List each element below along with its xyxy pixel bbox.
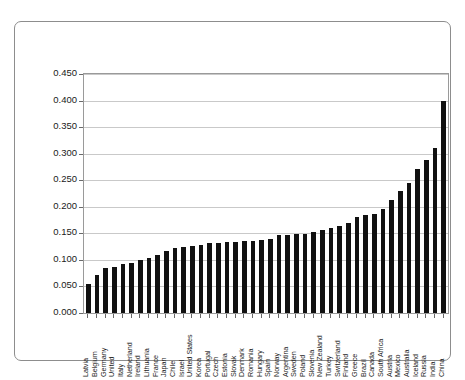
bar <box>381 209 386 313</box>
gridline <box>84 180 448 181</box>
gridline <box>84 74 448 75</box>
bar <box>103 268 108 313</box>
x-axis-tick-label: Korea <box>195 358 203 377</box>
bar <box>311 232 316 313</box>
y-axis-tick-label: 0.350 <box>53 121 77 131</box>
y-axis-tick-label: 0.200 <box>53 201 77 211</box>
x-axis-tickmark <box>417 314 418 318</box>
bar <box>112 267 117 313</box>
x-axis-tickmark <box>131 314 132 318</box>
x-axis-tickmark <box>373 314 374 318</box>
y-axis-tick-label: 0.150 <box>53 227 77 237</box>
bar <box>441 101 446 313</box>
x-axis-tickmark <box>183 314 184 318</box>
bar <box>433 148 438 313</box>
bar <box>294 234 299 313</box>
y-axis-tickmark <box>79 180 83 181</box>
bar <box>147 258 152 313</box>
bar <box>303 234 308 313</box>
x-axis-tickmark <box>122 314 123 318</box>
y-axis-tickmark <box>79 154 83 155</box>
x-axis-tickmark <box>321 314 322 318</box>
plot-area <box>83 73 449 314</box>
chart-figure: 0.0000.0500.1000.1500.2000.2500.3000.350… <box>0 0 465 380</box>
x-axis-tick-label: India <box>429 362 437 377</box>
y-axis-tick-label: 0.100 <box>53 254 77 264</box>
bar <box>424 160 429 313</box>
x-axis-tickmark <box>235 314 236 318</box>
bar <box>415 169 420 313</box>
bar <box>329 228 334 313</box>
x-axis-tickmark <box>339 314 340 318</box>
bar <box>233 242 238 313</box>
y-axis-tick-label: 0.000 <box>53 307 77 317</box>
bar <box>199 245 204 314</box>
bar <box>181 247 186 313</box>
x-axis-tick-label: China <box>438 358 446 377</box>
x-axis-tick-label: Belgium <box>91 351 99 377</box>
x-axis-tick-label: Norway <box>273 353 281 377</box>
bar <box>277 235 282 313</box>
bar <box>355 217 360 313</box>
bar <box>320 230 325 313</box>
x-axis-tickmark <box>96 314 97 318</box>
x-axis-tickmark <box>148 314 149 318</box>
x-axis-tickmark <box>313 314 314 318</box>
bar <box>363 215 368 313</box>
x-axis-tickmark <box>347 314 348 318</box>
x-axis-tickmark <box>261 314 262 318</box>
bar <box>225 242 230 313</box>
x-axis-tickmark <box>174 314 175 318</box>
x-axis-tickmark <box>399 314 400 318</box>
bar <box>173 248 178 313</box>
x-axis-tickmark <box>278 314 279 318</box>
x-axis-tickmark <box>157 314 158 318</box>
bar <box>268 239 273 313</box>
x-axis-tickmark <box>252 314 253 318</box>
x-axis-tickmark <box>287 314 288 318</box>
x-axis-tickmark <box>200 314 201 318</box>
bar <box>389 200 394 313</box>
x-axis-tickmark <box>105 314 106 318</box>
bar <box>190 246 195 313</box>
y-axis-tick-label: 0.050 <box>53 280 77 290</box>
x-axis-tickmark <box>391 314 392 318</box>
x-axis-tickmark <box>330 314 331 318</box>
x-axis-tick-label: Romania <box>247 349 255 377</box>
y-axis-tick-label: 0.450 <box>53 68 77 78</box>
x-axis-tickmark <box>113 314 114 318</box>
y-axis-labels: 0.0000.0500.1000.1500.2000.2500.3000.350… <box>33 73 77 314</box>
y-axis-tickmark <box>79 260 83 261</box>
bar <box>242 241 247 313</box>
x-axis-tickmark <box>443 314 444 318</box>
gridline <box>84 101 448 102</box>
x-axis-tickmark <box>365 314 366 318</box>
x-axis-tick-label: Turkey <box>325 356 333 377</box>
y-axis-tickmark <box>79 233 83 234</box>
y-axis-tickmark <box>79 207 83 208</box>
x-axis-tick-label: South Africa <box>377 339 385 377</box>
x-axis-tick-label: Greece <box>351 354 359 377</box>
x-axis-tickmark <box>408 314 409 318</box>
bar <box>138 260 143 313</box>
x-axis-tick-label: Australia <box>403 349 411 377</box>
y-axis-tickmark <box>79 127 83 128</box>
x-axis-tick-label: Estonia <box>221 353 229 377</box>
figure-frame: 0.0000.0500.1000.1500.2000.2500.3000.350… <box>14 21 451 361</box>
x-axis-tickmark <box>295 314 296 318</box>
x-axis-tick-label: Italy <box>117 364 125 377</box>
x-axis-tickmark <box>269 314 270 318</box>
bar <box>346 223 351 313</box>
x-axis-tickmark <box>243 314 244 318</box>
x-axis-tickmark <box>226 314 227 318</box>
y-axis-tickmark <box>79 286 83 287</box>
bar <box>121 264 126 313</box>
x-axis-tickmark <box>165 314 166 318</box>
bar <box>216 243 221 313</box>
bar <box>337 226 342 313</box>
x-axis-tickmark <box>434 314 435 318</box>
bar <box>259 240 264 313</box>
x-axis-tickmark <box>191 314 192 318</box>
x-axis-tick-label: Lithuania <box>143 348 151 377</box>
bar <box>372 214 377 313</box>
